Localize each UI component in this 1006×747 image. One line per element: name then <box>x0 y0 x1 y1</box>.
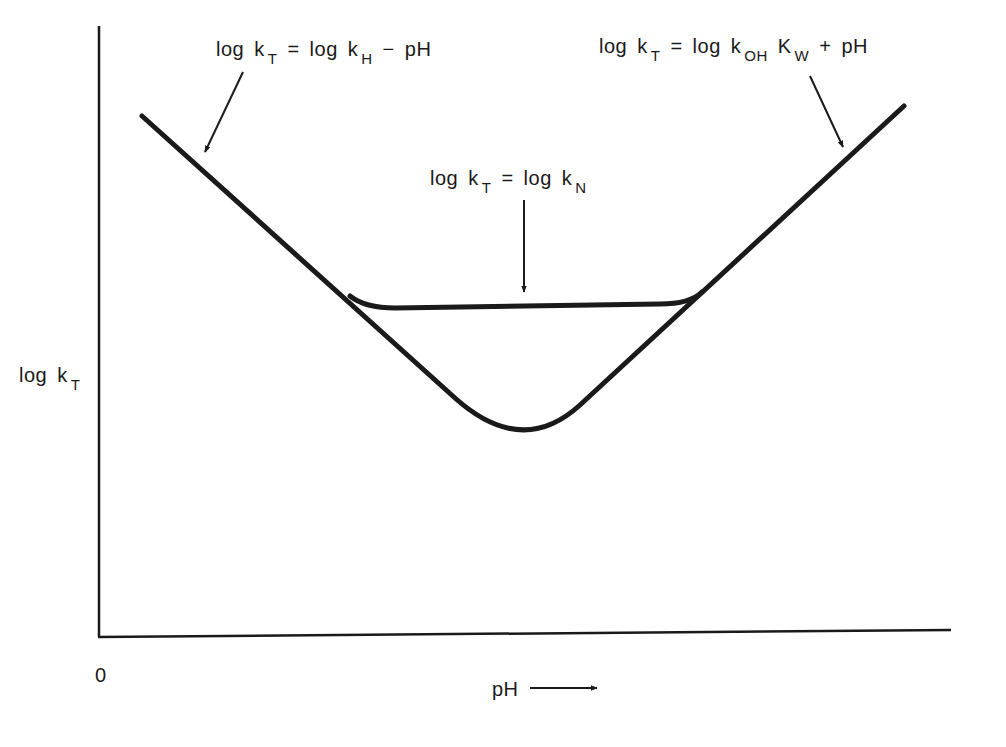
label-text: log <box>599 35 627 57</box>
label-subscript: T <box>268 50 278 67</box>
label-text: = <box>670 35 682 57</box>
origin-label: 0 <box>95 664 107 687</box>
y-axis-label: logkT <box>19 364 80 387</box>
arrow-base <box>810 76 843 147</box>
label-text: = <box>501 167 513 189</box>
label-text: log <box>19 364 47 386</box>
label-subscript: T <box>71 376 81 393</box>
x-axis <box>98 630 951 637</box>
label-text: k <box>57 364 68 386</box>
label-text: k <box>468 167 479 189</box>
label-text: log <box>693 35 721 57</box>
label-text: k <box>254 38 265 60</box>
label-subscript: OH <box>744 47 768 64</box>
label-subscript: H <box>361 50 372 67</box>
label-text: K <box>778 35 792 57</box>
chart-canvas <box>0 0 1006 747</box>
annotation-acid: logkT=logkH−pH <box>216 38 431 61</box>
label-text: k <box>348 38 359 60</box>
label-subscript: T <box>482 179 492 196</box>
label-text: pH <box>405 38 432 60</box>
label-subscript: W <box>795 47 810 64</box>
label-text: k <box>562 167 573 189</box>
label-subscript: N <box>575 179 586 196</box>
label-text: − <box>383 38 395 60</box>
label-text: pH <box>841 35 868 57</box>
label-text: log <box>524 167 552 189</box>
arrow-acid <box>205 72 243 152</box>
label-text: log <box>216 38 244 60</box>
label-text: = <box>287 38 299 60</box>
x-axis-label: pH <box>492 678 519 701</box>
label-text: k <box>637 35 648 57</box>
label-text: k <box>731 35 742 57</box>
annotation-base: logkT=logkOHKW+pH <box>599 35 868 58</box>
label-text: log <box>430 167 458 189</box>
curve-plateau <box>350 292 702 308</box>
annotation-neutral: logkT=logkN <box>430 167 587 190</box>
label-text: + <box>819 35 831 57</box>
label-text: log <box>310 38 338 60</box>
label-subscript: T <box>651 47 661 64</box>
